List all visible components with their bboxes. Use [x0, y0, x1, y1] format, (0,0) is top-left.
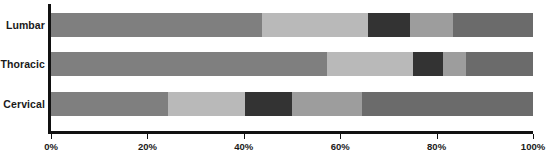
x-axis-tick-label: 100%	[503, 141, 550, 152]
category-label-lumbar: Lumbar	[0, 19, 45, 31]
bar-segment	[292, 92, 362, 116]
bar-segment	[368, 13, 410, 37]
bar-segment	[410, 13, 453, 37]
bar-cervical	[51, 92, 533, 116]
x-axis-tick-label: 20%	[117, 141, 177, 152]
bar-thoracic	[51, 52, 533, 76]
bar-segment	[51, 13, 262, 37]
bar-segment	[453, 13, 533, 37]
x-axis-tick-label: 40%	[214, 141, 274, 152]
x-axis-tick	[51, 134, 52, 139]
bar-segment	[168, 92, 245, 116]
bar-segment	[443, 52, 466, 76]
bar-segment	[362, 92, 533, 116]
x-axis-tick-label: 60%	[310, 141, 370, 152]
bar-segment	[51, 92, 168, 116]
category-label-cervical: Cervical	[0, 98, 45, 110]
x-axis-tick	[244, 134, 245, 139]
bar-segment	[413, 52, 443, 76]
bar-segment	[466, 52, 533, 76]
x-axis-tick	[533, 134, 534, 139]
bar-segment	[262, 13, 368, 37]
x-axis-tick-label: 80%	[407, 141, 467, 152]
bar-segment	[51, 52, 327, 76]
bar-segment	[327, 52, 413, 76]
x-axis-tick	[437, 134, 438, 139]
bar-lumbar	[51, 13, 533, 37]
x-axis-tick-label: 0%	[21, 141, 81, 152]
x-axis-tick	[340, 134, 341, 139]
x-axis-tick	[147, 134, 148, 139]
category-label-thoracic: Thoracic	[0, 58, 45, 70]
x-axis-line	[48, 131, 533, 134]
bar-segment	[245, 92, 292, 116]
